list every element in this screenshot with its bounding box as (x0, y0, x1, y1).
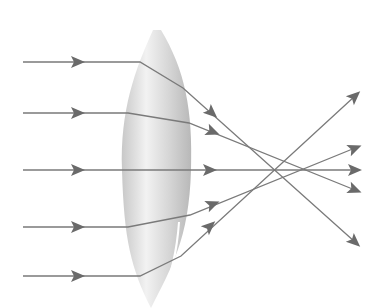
ray-4-mid-arrow-icon (204, 201, 219, 212)
light-rays (23, 56, 362, 282)
ray-5-mid-arrow-icon (201, 221, 215, 235)
lens-diagram (0, 0, 377, 308)
diagram-canvas (0, 0, 377, 308)
ray-2-mid-arrow-icon (204, 124, 219, 135)
ray-1-mid-arrow-icon (203, 104, 217, 118)
